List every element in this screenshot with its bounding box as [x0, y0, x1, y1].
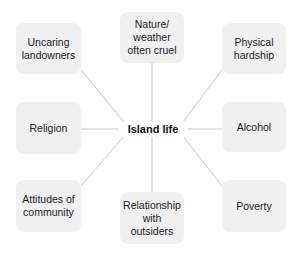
- node-relationship-with-outsiders: Relationship with outsiders: [120, 192, 184, 244]
- node-poverty: Poverty: [222, 180, 286, 232]
- node-uncaring-landowners: Uncaring landowners: [16, 23, 81, 74]
- connector-attitudes-of-community: [81, 136, 124, 186]
- connector-uncaring-landowners: [81, 70, 124, 122]
- connector-physical-hardship: [183, 70, 222, 122]
- node-physical-hardship: Physical hardship: [222, 23, 286, 74]
- connector-poverty: [183, 136, 222, 186]
- node-alcohol: Alcohol: [222, 102, 286, 152]
- node-attitudes-of-community: Attitudes of community: [16, 180, 81, 232]
- center-topic: Island life: [118, 121, 188, 137]
- node-religion: Religion: [16, 102, 81, 154]
- node-nature-weather: Nature/ weather often cruel: [120, 12, 184, 63]
